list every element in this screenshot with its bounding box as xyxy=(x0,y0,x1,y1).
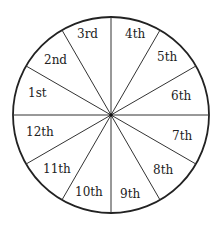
house-label-4: 4th xyxy=(125,27,145,41)
house-label-7: 7th xyxy=(172,129,192,143)
house-label-8: 8th xyxy=(153,163,173,177)
house-label-2: 2nd xyxy=(44,53,67,67)
house-label-1: 1st xyxy=(28,86,47,100)
house-label-10: 10th xyxy=(75,185,103,199)
center-dot xyxy=(109,113,113,117)
house-label-9: 9th xyxy=(120,187,140,201)
house-wheel-diagram: 1st2nd3rd4th5th6th7th8th9th10th11th12th xyxy=(0,0,221,227)
house-label-6: 6th xyxy=(171,89,191,103)
house-label-3: 3rd xyxy=(77,27,98,41)
house-label-11: 11th xyxy=(43,162,71,176)
house-label-5: 5th xyxy=(157,50,177,64)
house-label-12: 12th xyxy=(26,125,54,139)
